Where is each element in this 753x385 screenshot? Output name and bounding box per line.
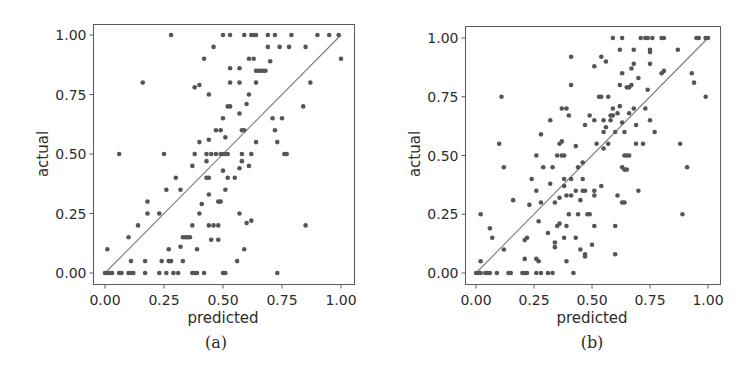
data-point (178, 187, 183, 192)
scatter-panel-a: actual 0.000.250.500.751.00 0.000.250.50… (0, 0, 376, 385)
data-point (557, 196, 562, 201)
data-point (643, 106, 648, 111)
data-point (233, 176, 238, 181)
data-point (634, 123, 639, 128)
data-point (536, 259, 541, 264)
data-point (599, 184, 604, 189)
data-point (564, 259, 569, 264)
data-point (599, 94, 604, 99)
data-point (620, 120, 625, 125)
data-point (550, 271, 555, 276)
x-tick-label: 0.50 (207, 292, 238, 308)
data-point (534, 271, 539, 276)
data-point (631, 62, 636, 67)
data-point (240, 159, 245, 164)
data-point (478, 212, 483, 217)
data-point (652, 130, 657, 135)
data-point (529, 177, 534, 182)
data-point (611, 36, 616, 41)
data-point (207, 92, 212, 97)
data-point (696, 36, 701, 41)
data-point (235, 259, 240, 264)
data-point (478, 271, 483, 276)
data-point (249, 218, 254, 223)
data-point (631, 47, 636, 52)
y-tick-label: 0.50 (427, 148, 458, 164)
x-tick-label: 0.00 (89, 292, 120, 308)
data-point (216, 223, 221, 228)
data-point (583, 123, 588, 128)
data-point (197, 83, 202, 88)
data-point (251, 57, 256, 62)
data-point (546, 231, 551, 236)
data-point (620, 71, 625, 76)
data-point (159, 259, 164, 264)
data-point (207, 192, 212, 197)
data-point (606, 141, 611, 146)
data-point (553, 200, 558, 205)
data-point (562, 235, 567, 240)
data-point (678, 141, 683, 146)
data-point (583, 252, 588, 257)
data-point (339, 57, 344, 62)
data-point (611, 106, 616, 111)
data-point (604, 125, 609, 130)
data-point (308, 80, 313, 85)
data-point (548, 118, 553, 123)
data-point (188, 235, 193, 240)
data-point (546, 271, 551, 276)
data-point (592, 193, 597, 198)
x-tick-label: 0.75 (266, 292, 297, 308)
data-point (599, 55, 604, 60)
data-point (247, 57, 252, 62)
data-point (629, 66, 634, 71)
data-point (594, 141, 599, 146)
data-point (587, 113, 592, 118)
data-point (287, 45, 292, 50)
data-point (627, 111, 632, 116)
y-tick-label: 0.00 (427, 265, 458, 281)
data-point (627, 153, 632, 158)
y-tick-label: 0.75 (427, 89, 458, 105)
data-point (611, 113, 616, 118)
data-point (105, 247, 110, 252)
data-point (509, 271, 514, 276)
data-point (327, 33, 332, 38)
data-point (190, 164, 195, 169)
y-axis-label: actual (406, 131, 424, 177)
data-point (254, 80, 259, 85)
scatter-panel-b: actual 0.000.250.500.751.00 0.000.250.50… (376, 0, 753, 385)
data-point (225, 152, 230, 157)
data-point (536, 219, 541, 224)
data-point (207, 223, 212, 228)
data-point (270, 116, 275, 121)
data-point (534, 153, 539, 158)
scatter-plot-b: actual 0.000.250.500.751.00 0.000.250.50… (376, 0, 753, 385)
data-point (608, 118, 613, 123)
data-point (176, 271, 181, 276)
data-point (169, 33, 174, 38)
data-point (615, 193, 620, 198)
data-point (567, 113, 572, 118)
data-point (237, 66, 242, 71)
data-point (613, 252, 618, 257)
data-point (573, 235, 578, 240)
data-point (247, 164, 252, 169)
y-tick-label: 0.00 (55, 265, 86, 281)
data-point (164, 271, 169, 276)
data-point (525, 271, 530, 276)
data-point (525, 235, 530, 240)
data-point (601, 146, 606, 151)
data-point (478, 259, 483, 264)
data-point (564, 193, 569, 198)
data-point (622, 200, 627, 205)
data-point (254, 140, 259, 145)
data-point (244, 221, 249, 226)
data-point (242, 33, 247, 38)
data-point (174, 176, 179, 181)
data-point (604, 59, 609, 64)
data-point (590, 243, 595, 248)
data-point (145, 199, 150, 204)
x-axis-label: predicted (187, 309, 258, 327)
data-point (157, 211, 162, 216)
